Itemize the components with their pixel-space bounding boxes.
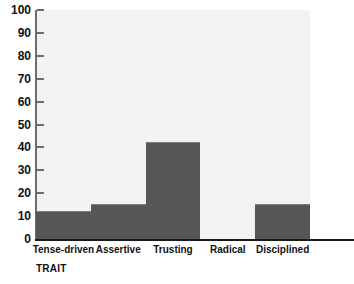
y-tick-label: 40 <box>0 142 31 152</box>
y-tick-label: 100 <box>0 5 31 15</box>
y-tick-label: 90 <box>0 28 31 38</box>
y-tick-label: 30 <box>0 165 31 175</box>
x-tick-label: Disciplined <box>247 244 318 256</box>
x-axis-line <box>35 239 354 241</box>
bar-slot <box>36 10 91 239</box>
y-tick-label: 20 <box>0 188 31 198</box>
x-axis-title: TRAIT <box>36 263 66 274</box>
bar[interactable] <box>146 142 201 239</box>
bar-slot <box>146 10 201 239</box>
y-tick-label: 70 <box>0 74 31 84</box>
y-tick-label: 80 <box>0 51 31 61</box>
bar[interactable] <box>36 211 91 239</box>
bar-chart: 1009080706050403020100 Tense-drivenAsser… <box>0 0 354 284</box>
bar-slot <box>255 10 310 239</box>
y-tick-label: 50 <box>0 120 31 130</box>
bar-slot <box>200 10 255 239</box>
y-tick-label: 0 <box>0 234 31 244</box>
x-axis-category-labels: Tense-drivenAssertiveTrustingRadicalDisc… <box>36 244 310 260</box>
y-tick-label: 60 <box>0 97 31 107</box>
bar-slot <box>91 10 146 239</box>
y-tick-label: 10 <box>0 211 31 221</box>
bar[interactable] <box>255 204 310 239</box>
bars-container <box>36 10 310 239</box>
bar[interactable] <box>91 204 146 239</box>
